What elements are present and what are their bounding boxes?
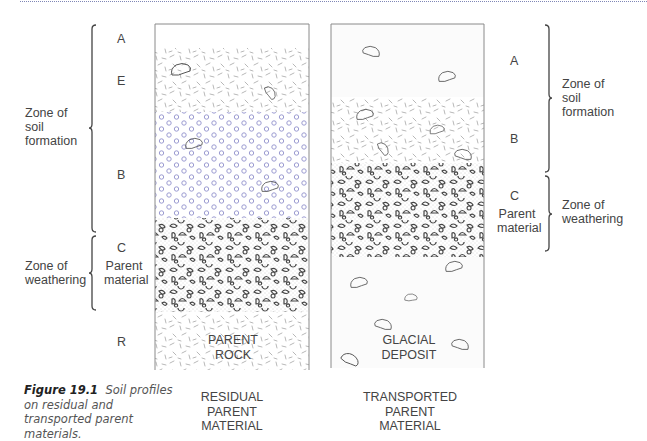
right-parent-material-label: Parent material	[497, 207, 537, 235]
residual-parent-material-title: RESIDUAL PARENT MATERIAL	[182, 390, 282, 434]
zone-of-word: Zone of	[562, 198, 623, 212]
right-brace-weathering	[545, 176, 552, 251]
inner-line-2: DEPOSIT	[366, 348, 452, 363]
material-word: material	[497, 221, 537, 235]
formation-word: formation	[562, 105, 614, 119]
glacial-deposit-label: GLACIAL DEPOSIT	[366, 333, 452, 362]
left-profile-column	[155, 24, 309, 370]
zone-of-word: Zone of	[25, 106, 77, 120]
zone-of-word: Zone of	[25, 259, 86, 273]
formation-word: formation	[25, 134, 77, 148]
left-horizon-b-label: B	[117, 168, 125, 182]
right-brace-soil-formation	[545, 25, 552, 172]
parent-word: Parent	[104, 259, 144, 273]
title-line-3: MATERIAL	[355, 419, 465, 434]
soil-word: soil	[562, 91, 614, 105]
right-horizon-c-label: C	[510, 189, 519, 203]
left-horizon-e-label: E	[117, 74, 125, 88]
left-brace-soil-formation	[89, 25, 96, 232]
weathering-word: weathering	[25, 273, 86, 287]
title-line-1: RESIDUAL	[182, 390, 282, 405]
inner-line-1: GLACIAL	[366, 333, 452, 348]
left-parent-material-label: Parent material	[104, 259, 144, 287]
inner-line-2: ROCK	[190, 348, 276, 363]
left-brace-weathering	[89, 236, 96, 310]
inner-line-1: PARENT	[190, 333, 276, 348]
right-zone-soil-formation-label: Zone of soil formation	[562, 77, 614, 119]
right-zone-weathering-label: Zone of weathering	[562, 198, 623, 226]
left-horizon-r-label: R	[117, 335, 126, 349]
parent-rock-label: PARENT ROCK	[190, 333, 276, 362]
figure-number: Figure 19.1	[24, 383, 98, 397]
material-word: material	[104, 273, 144, 287]
left-zone-soil-formation-label: Zone of soil formation	[25, 106, 77, 148]
parent-word: Parent	[497, 207, 537, 221]
left-horizon-c-label: C	[117, 241, 126, 255]
figure-caption: Figure 19.1 Soil profiles on residual an…	[24, 383, 174, 441]
title-line-2: PARENT	[355, 405, 465, 420]
right-profile-column	[331, 24, 484, 369]
transported-parent-material-title: TRANSPORTED PARENT MATERIAL	[355, 390, 465, 434]
right-horizon-a-label: A	[510, 54, 518, 68]
soil-word: soil	[25, 120, 77, 134]
zone-of-word: Zone of	[562, 77, 614, 91]
right-horizon-b-label: B	[510, 132, 518, 146]
title-line-3: MATERIAL	[182, 419, 282, 434]
title-line-1: TRANSPORTED	[355, 390, 465, 405]
left-horizon-a-label: A	[117, 32, 125, 46]
title-line-2: PARENT	[182, 405, 282, 420]
left-zone-weathering-label: Zone of weathering	[25, 259, 86, 287]
weathering-word: weathering	[562, 212, 623, 226]
